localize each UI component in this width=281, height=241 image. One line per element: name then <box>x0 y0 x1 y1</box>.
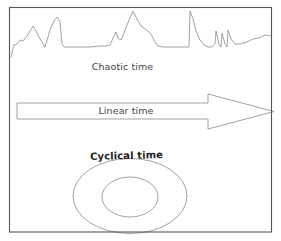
chaotic-time-label: Chaotic time <box>0 61 245 72</box>
diagram-canvas <box>0 0 281 241</box>
diagram-page: Chaotic time Linear time Cyclical time <box>0 0 281 241</box>
linear-time-label: Linear time <box>0 105 252 116</box>
